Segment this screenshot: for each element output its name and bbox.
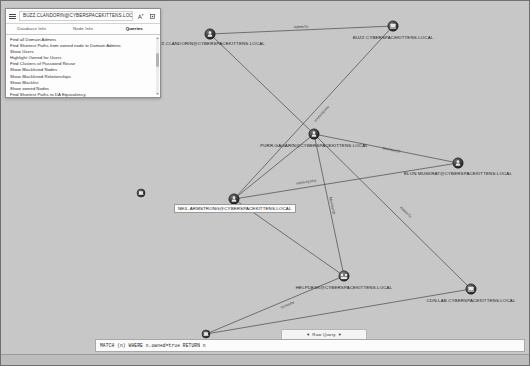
bloodhound-window: AdminToHasSessionMemberOfMemberOfAdminTo…	[0, 0, 530, 366]
tab-queries[interactable]: Queries	[109, 24, 160, 34]
graph-edge[interactable]	[314, 134, 471, 289]
graph-edge[interactable]	[210, 34, 314, 134]
graph-node-user[interactable]	[453, 158, 463, 168]
edge-label: MemberOf	[382, 146, 400, 153]
tab-database-info[interactable]: Database Info	[6, 24, 57, 34]
query-item[interactable]: Find Shortest Paths to DA Equivalency	[6, 92, 160, 97]
graph-node-computer[interactable]	[202, 330, 210, 338]
selected-node-label-box[interactable]: NEIL.ARMSTRONG@CYBERSPACEKITTENS.LOCAL	[174, 204, 296, 213]
edge-label: HasSession	[313, 105, 330, 123]
hamburger-icon[interactable]	[9, 13, 16, 20]
graph-node-computer[interactable]	[466, 284, 476, 294]
edge-label: AdminTo	[399, 206, 412, 219]
scroll-down-arrow[interactable]: ▼	[156, 92, 160, 96]
graph-nodes-layer[interactable]	[137, 21, 476, 338]
tab-node-info[interactable]: Node Info	[57, 24, 108, 34]
pathfinding-icon[interactable]	[136, 11, 145, 21]
status-strip	[1, 354, 529, 365]
graph-node-group[interactable]	[339, 271, 349, 281]
cypher-query-bar[interactable]	[95, 339, 525, 352]
graph-edge[interactable]	[314, 134, 344, 276]
graph-node-label: JIZZ.CLANDORIN@CYBERSPACEKITTENS.LOCAL	[155, 41, 265, 46]
side-panel: BUZZ.CLANDORIN@CYBERSPACEKITTENS.LOCAL D…	[5, 8, 161, 98]
gear-icon[interactable]	[148, 11, 157, 21]
graph-node-label: ELON.MUSKRAT@CYBERSPACEKITTENS.LOCAL	[404, 171, 512, 176]
search-input[interactable]: BUZZ.CLANDORIN@CYBERSPACEKITTENS.LOCAL	[19, 11, 133, 21]
queries-scrollbar-thumb[interactable]	[156, 53, 159, 67]
graph-node-user[interactable]	[309, 129, 319, 139]
raw-query-toggle[interactable]: ▼ Raw Query ▼	[281, 329, 367, 339]
graph-edge-labels-layer: AdminToHasSessionMemberOfMemberOfAdminTo…	[280, 25, 412, 310]
graph-edge[interactable]	[206, 289, 471, 334]
graph-node-labels-layer: JIZZ.CLANDORIN@CYBERSPACEKITTENS.LOCALBU…	[155, 35, 516, 303]
panel-tab-row[interactable]: Database InfoNode InfoQueries	[6, 24, 160, 35]
edge-label: AdminTo	[294, 25, 309, 30]
graph-node-label: PURR.GAGARIN@CYBERSPACEKITTENS.LOCAL	[260, 143, 368, 148]
graph-node-label: BUZZ.CYBERSPACEKITTENS.LOCAL	[353, 35, 434, 40]
graph-node-user[interactable]	[205, 29, 215, 39]
graph-node-user[interactable]	[229, 194, 239, 204]
graph-node-computer[interactable]	[388, 21, 398, 31]
graph-edge[interactable]	[234, 163, 458, 199]
graph-node-computer[interactable]	[137, 189, 145, 197]
graph-edge[interactable]	[234, 26, 393, 199]
edge-label: HasSession	[296, 178, 317, 185]
caret-down-right-icon: ▼	[338, 333, 342, 337]
scroll-up-arrow[interactable]: ▲	[156, 36, 160, 40]
queries-scrollbar[interactable]	[156, 37, 159, 95]
raw-query-label: Raw Query	[312, 332, 335, 337]
graph-node-label: CDN-LAB.CYBERSPACEKITTENS.LOCAL	[427, 298, 516, 303]
graph-node-label: HELPDESK@CYBERSPACEKITTENS.LOCAL	[296, 285, 393, 290]
prebuilt-queries-list[interactable]: ▲ ▼ Find all Domain AdminsFind Shortest …	[6, 35, 160, 97]
cypher-query-input[interactable]	[100, 343, 520, 348]
panel-search-row: BUZZ.CLANDORIN@CYBERSPACEKITTENS.LOCAL	[6, 9, 160, 24]
caret-down-left-icon: ▼	[306, 333, 310, 337]
